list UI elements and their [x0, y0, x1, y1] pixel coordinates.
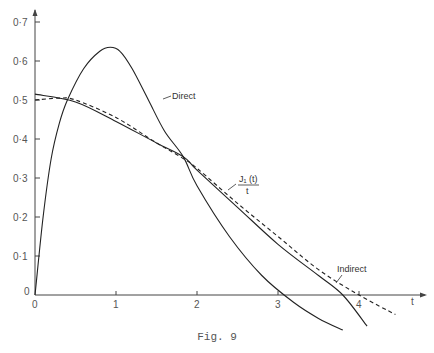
line-chart: 00·10·20·30·40·50·60·701234 Direct J₁ (t…	[0, 0, 434, 353]
j1-label-numerator: J₁ (t)	[239, 174, 258, 184]
x-axis-label: t	[411, 296, 414, 307]
curve-j1-t-t	[35, 94, 367, 326]
y-axis-arrow-icon	[33, 9, 38, 16]
x-tick-label: 4	[356, 299, 362, 310]
x-axis-arrow-icon	[420, 293, 427, 298]
annotations: Direct J₁ (t) t Indirect t	[163, 91, 414, 307]
x-tick-label: 0	[32, 299, 38, 310]
indirect-arrow	[336, 275, 342, 283]
direct-arrow	[163, 96, 171, 99]
x-tick-label: 1	[113, 299, 119, 310]
y-tick-label: 0	[24, 286, 30, 297]
curve-indirect	[35, 98, 395, 315]
y-tick-label: 0·1	[13, 251, 28, 262]
y-tick-label: 0·6	[13, 56, 28, 67]
y-tick-label: 0·3	[13, 173, 28, 184]
curves	[35, 47, 395, 330]
figure-caption: Fig. 9	[0, 331, 434, 343]
y-tick-label: 0·4	[13, 134, 28, 145]
direct-label: Direct	[172, 91, 196, 101]
y-tick-label: 0·5	[13, 95, 28, 106]
x-tick-label: 3	[275, 299, 281, 310]
y-tick-label: 0·2	[13, 212, 28, 223]
x-tick-label: 2	[194, 299, 200, 310]
j1-label-denominator: t	[246, 186, 249, 196]
indirect-label: Indirect	[337, 264, 367, 274]
y-tick-label: 0·7	[13, 17, 28, 28]
j1-arrow	[228, 184, 236, 190]
curve-direct	[35, 47, 343, 330]
